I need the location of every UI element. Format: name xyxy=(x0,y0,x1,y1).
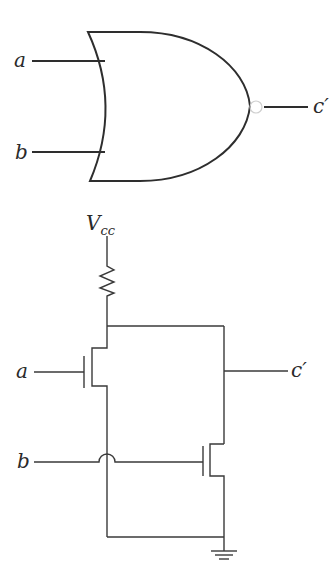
transistor-b-channel xyxy=(210,444,224,537)
or-gate-body xyxy=(88,32,250,181)
gate-input-a-label: a xyxy=(14,48,26,72)
inversion-bubble xyxy=(250,101,262,113)
circuit-input-a-label: a xyxy=(16,359,28,383)
gate-input-b-label: b xyxy=(15,140,28,164)
circuit-input-b-label: b xyxy=(17,449,30,473)
transistor-b xyxy=(203,444,224,537)
transistor-circuit: Vcc a c′ b xyxy=(16,211,307,559)
pull-up-resistor xyxy=(100,236,114,326)
nor-gate-symbol: a b c′ xyxy=(14,32,329,181)
ground-icon xyxy=(211,537,237,559)
transistor-a xyxy=(34,326,107,462)
gate-output-label: c′ xyxy=(313,94,329,118)
vcc-label: Vcc xyxy=(86,211,116,238)
transistor-a-channel xyxy=(92,326,107,462)
diagram-canvas: a b c′ Vcc a c′ b xyxy=(0,0,336,582)
circuit-input-b-wire xyxy=(34,454,203,462)
circuit-output-label: c′ xyxy=(291,358,307,382)
